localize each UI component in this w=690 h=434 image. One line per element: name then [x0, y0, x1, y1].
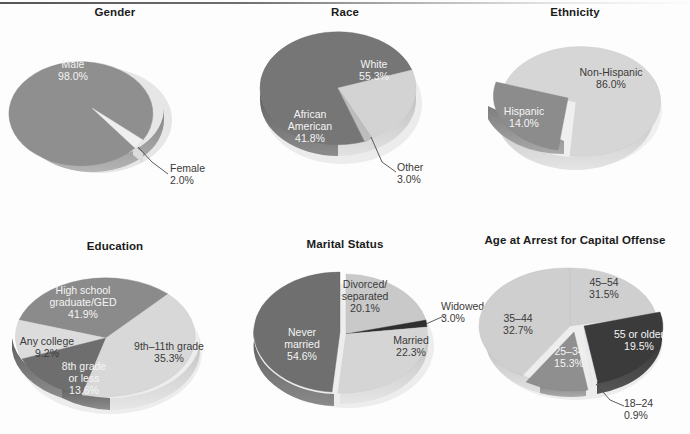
callout-line-widowed [426, 316, 444, 324]
chart-panel-education: Education [0, 240, 230, 434]
pie-marital-svg [230, 254, 460, 434]
chart-title-gender: Gender [0, 6, 230, 18]
chart-panel-age-at-arrest: Age at Arrest for Capital Offense [460, 234, 690, 434]
slice-male [9, 62, 153, 166]
chart-panel-gender: Gender [0, 6, 230, 206]
chart-panel-ethnicity: Ethnicity [460, 6, 690, 206]
pie-gender: Male 98.0% Female 2.0% [0, 20, 230, 206]
chart-title-ethnicity: Ethnicity [460, 6, 690, 18]
pie-marital-status: Divorced/ separated 20.1% Married 22.3% … [230, 254, 460, 434]
chart-title-education: Education [0, 240, 230, 252]
chart-title-marital-status: Marital Status [230, 238, 460, 250]
pie-ethnicity: Non-Hispanic 86.0% Hispanic 14.0% [460, 20, 690, 206]
pie-gender-svg [0, 20, 230, 206]
pie-age-at-arrest: 45–54 31.5% 35–44 32.7% 25–34 15.3% 55 o… [460, 250, 690, 434]
chart-title-age-at-arrest: Age at Arrest for Capital Offense [460, 234, 690, 246]
pie-chart-figure: Gender [0, 0, 690, 434]
pie-race-svg [230, 16, 460, 206]
pie-ethnicity-svg [460, 20, 690, 206]
pie-age-svg [460, 250, 690, 434]
chart-panel-race: Race [230, 6, 460, 206]
header-rule [0, 2, 690, 4]
pie-education: High school graduate/GED 41.9% 9th–11th … [0, 256, 230, 434]
chart-panel-marital-status: Marital Status [230, 238, 460, 434]
pie-education-svg [0, 256, 230, 434]
pie-race: White 55.3% African American 41.8% Other… [230, 16, 460, 206]
